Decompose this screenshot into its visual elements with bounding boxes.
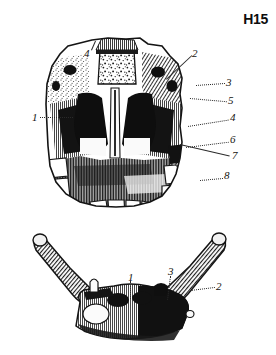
mandible-spine [90, 279, 98, 292]
label-top-4a: 4 [84, 48, 90, 59]
label-top-4b: 4 [230, 112, 236, 123]
label-bottom-2: 2 [216, 281, 222, 292]
figure-maxilla-coronal-section [30, 34, 202, 216]
label-top-8: 8 [224, 170, 230, 181]
label-top-7: 7 [232, 150, 238, 161]
label-top-3: 3 [226, 77, 232, 88]
leader-line-bottom-1 [130, 281, 131, 299]
label-top-6: 6 [230, 134, 236, 145]
label-bottom-1: 1 [128, 272, 134, 283]
mandible-notch [154, 283, 168, 296]
label-top-2: 2 [192, 48, 198, 59]
leader-line-top-8 [200, 178, 223, 181]
leader-line-top-1 [40, 117, 73, 118]
label-bottom-3: 3 [168, 266, 174, 277]
plate-code: H15 [243, 12, 268, 26]
anatomical-plate: H15 [0, 0, 276, 355]
label-top-1: 1 [32, 112, 38, 123]
label-top-5: 5 [228, 95, 234, 106]
